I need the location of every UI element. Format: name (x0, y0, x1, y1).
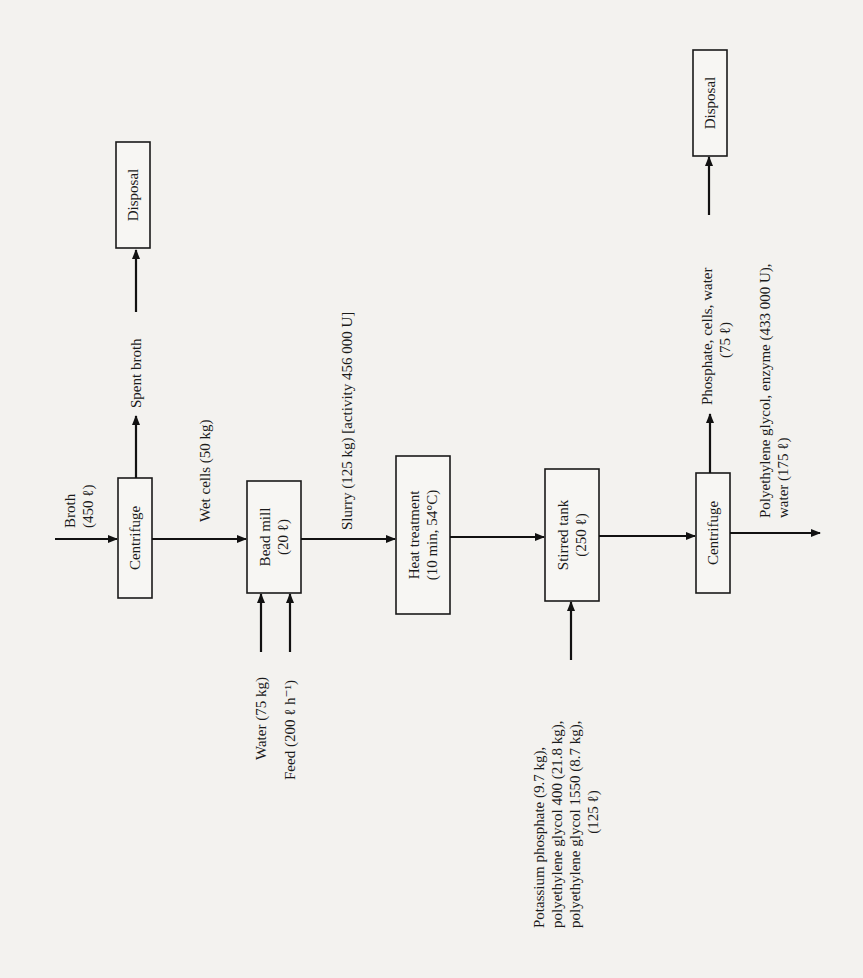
reagents-line-2: polyethylene glycol 400 (21.8 kg), (549, 721, 566, 928)
product-label-line-2: water (175 ℓ) (775, 438, 792, 519)
bead-mill-label: Bead mill (257, 508, 273, 567)
bead-mill-volume: (20 ℓ) (275, 519, 292, 555)
waste-volume-label: (75 ℓ) (717, 322, 734, 358)
process-flow-diagram: Broth (450 ℓ) Centrifuge Spent broth Dis… (0, 0, 863, 978)
bead-mill-unit: Bead mill (20 ℓ) (247, 481, 301, 593)
centrifuge-1-label: Centrifuge (127, 506, 143, 570)
stirred-tank-unit: Stirred tank (250 ℓ) (545, 469, 599, 601)
disposal-1-label: Disposal (125, 169, 141, 222)
heat-treatment-unit: Heat treatment (10 min, 54°C) (396, 456, 450, 614)
spent-broth-label: Spent broth (128, 338, 144, 408)
stirred-tank-label: Stirred tank (555, 499, 571, 570)
broth-label: Broth (62, 493, 78, 528)
heat-treatment-conditions: (10 min, 54°C) (424, 490, 441, 581)
centrifuge-1-unit: Centrifuge (118, 478, 152, 598)
disposal-2-unit: Disposal (693, 50, 727, 156)
disposal-2-label: Disposal (702, 77, 718, 130)
water-label: Water (75 kg) (253, 677, 270, 760)
heat-treatment-label: Heat treatment (406, 490, 422, 580)
reagents-line-4: (125 ℓ) (585, 790, 602, 833)
centrifuge-2-label: Centrifuge (705, 501, 721, 565)
slurry-label: Slurry (125 kg) [activity 456 000 U] (339, 312, 356, 530)
wet-cells-label: Wet cells (50 kg) (197, 419, 214, 522)
reagents-line-3: polyethylene glycol 1550 (8.7 kg), (567, 721, 584, 928)
centrifuge-2-unit: Centrifuge (696, 473, 730, 593)
reagents-line-1: Potassium phosphate (9.7 kg), (531, 747, 548, 928)
disposal-1-unit: Disposal (116, 142, 150, 248)
broth-volume-label: (450 ℓ) (80, 485, 97, 528)
feed-label: Feed (200 ℓ h⁻¹) (282, 680, 299, 780)
product-label-line-1: Polyethylene glycol, enzyme (433 000 U), (757, 263, 774, 518)
stirred-tank-volume: (250 ℓ) (573, 513, 590, 556)
waste-label: Phosphate, cells, water (699, 268, 715, 405)
